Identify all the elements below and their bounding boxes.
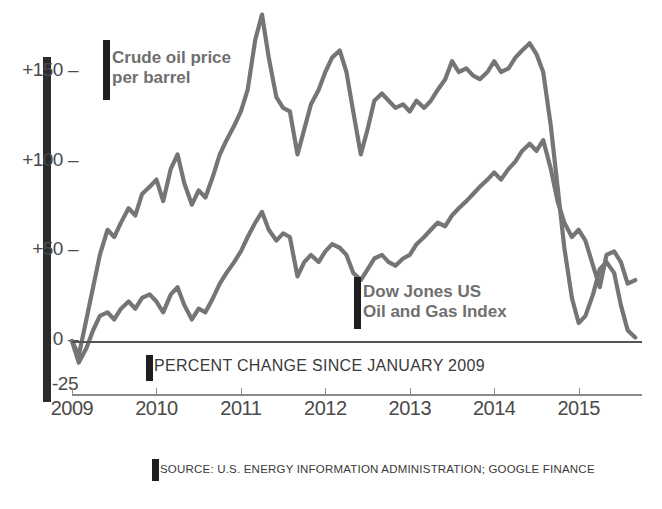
series-label-dow-jones-line2: Oil and Gas Index: [363, 302, 507, 321]
source-marker: [152, 459, 159, 481]
x-axis-line: [72, 394, 642, 396]
dow-jones-label-marker: [354, 277, 361, 329]
x-axis-tick-mark-2011: [241, 388, 242, 396]
x-axis-tick-label-2012: 2012: [304, 397, 347, 420]
x-axis-tick-label-2010: 2010: [135, 397, 178, 420]
x-axis-tick-label-2011: 2011: [220, 397, 261, 420]
x-axis-tick-label-2013: 2013: [389, 397, 432, 420]
x-axis-tick-mark-2015: [579, 388, 580, 396]
zero-baseline: [72, 341, 642, 343]
series-label-crude-oil-line1: Crude oil price: [112, 48, 231, 67]
series-label-dow-jones: Dow Jones USOil and Gas Index: [363, 282, 507, 321]
plot-area: [0, 0, 662, 509]
series-label-crude-oil-line2: per barrel: [112, 68, 190, 87]
x-axis-tick-mark-2014: [494, 388, 495, 396]
chart-source: SOURCE: U.S. ENERGY INFORMATION ADMINIST…: [160, 463, 595, 475]
x-axis-tick-mark-2010: [156, 388, 157, 396]
chart-caption: PERCENT CHANGE SINCE JANUARY 2009: [154, 357, 485, 375]
x-axis-tick-mark-2009: [72, 388, 73, 396]
x-axis-tick-mark-2012: [325, 388, 326, 396]
crude-oil-label-marker: [103, 40, 110, 100]
x-axis-tick-label-2009: 2009: [51, 397, 94, 420]
x-axis-tick-mark-2013: [410, 388, 411, 396]
series-line-dow-jones: [72, 140, 635, 362]
x-axis-tick-label-2015: 2015: [557, 397, 600, 420]
x-axis-tick-label-2014: 2014: [473, 397, 516, 420]
caption-marker: [146, 355, 153, 381]
series-label-crude-oil: Crude oil priceper barrel: [112, 48, 231, 87]
chart-container: +150–+100–+50–0–-25 20092010201120122013…: [0, 0, 662, 509]
series-label-dow-jones-line1: Dow Jones US: [363, 282, 481, 301]
